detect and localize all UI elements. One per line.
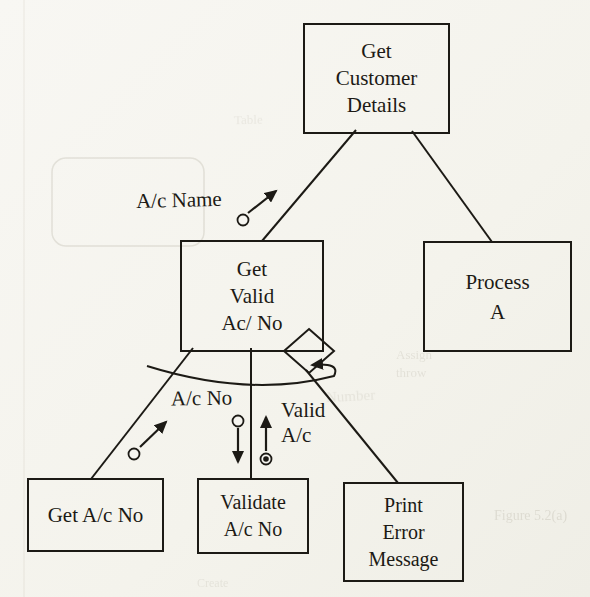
connector-customer-to-processa [412,131,492,242]
data-flow-arrow-ac-no [140,422,166,447]
label-ac-no: A/c No [171,385,233,411]
node-validate-ac-no: Validate A/c No [197,478,309,554]
scanned-structure-chart: Table Assign throw Number Figure 5.2(a) … [0,0,590,597]
loop-arrow-icon [147,364,335,384]
data-couple-circle [233,416,244,427]
data-couple-circle [238,215,249,226]
node-get-customer-details: Get Customer Details [303,23,450,134]
node-print-error-message: Print Error Message [343,482,464,582]
label-ac-name: A/c Name [136,187,222,214]
node-get-ac-no: Get A/c No [27,478,164,552]
control-couple-dot [263,456,269,462]
connector-getvalid-to-getacno [91,348,193,479]
connector-customer-to-getvalid [262,130,356,241]
node-process-a: Process A [423,241,572,352]
data-couple-circle [129,449,140,460]
label-valid-ac: Valid A/c [281,398,325,448]
node-get-valid-ac-no: Get Valid Ac/ No [180,240,324,352]
data-flow-arrow-ac-name [248,191,276,213]
